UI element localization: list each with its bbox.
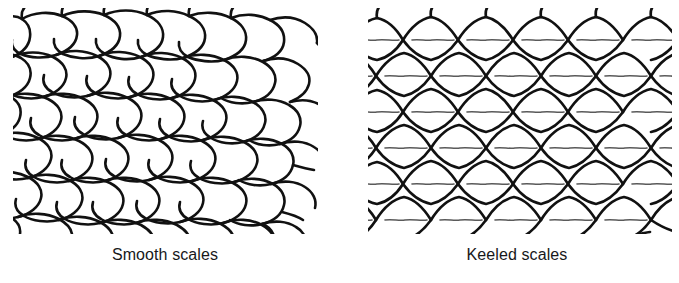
smooth-scales-panel — [0, 0, 330, 240]
smooth-scales-drawing — [0, 0, 330, 240]
keeled-scales-drawing — [355, 0, 679, 240]
scale-types-figure: Smooth scales Keeled scales — [0, 0, 679, 283]
caption-keeled-scales: Keeled scales — [355, 245, 679, 265]
keeled-scales-panel — [355, 0, 679, 240]
caption-smooth-scales: Smooth scales — [0, 245, 330, 265]
